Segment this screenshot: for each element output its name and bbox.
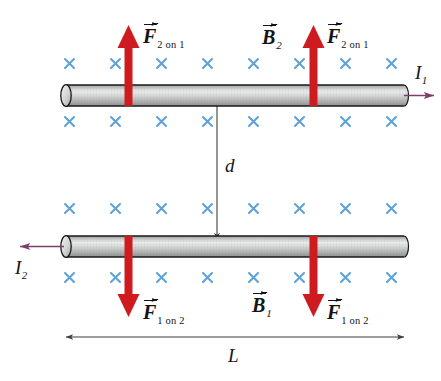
physics-figure-parallel-wires: F2 on 1 B2 F2 on 1 I1 I2 d F1 on 2 B1 F1… bbox=[0, 0, 441, 381]
label-force-2-on-1-right: F2 on 1 bbox=[327, 26, 368, 46]
field-row-above-wire-2 bbox=[65, 204, 396, 213]
length-symbol: L bbox=[228, 345, 239, 366]
current-subscript: 1 bbox=[422, 74, 428, 86]
label-force-2-on-1-left: F2 on 1 bbox=[143, 26, 184, 46]
field-row-above-wire-1 bbox=[65, 59, 396, 68]
label-force-1-on-2-left: F1 on 2 bbox=[143, 302, 184, 322]
force-symbol: F bbox=[327, 302, 340, 322]
force-subscript: 1 on 2 bbox=[157, 315, 184, 326]
label-current-i2: I2 bbox=[15, 258, 27, 277]
wire-1 bbox=[61, 85, 409, 107]
force-symbol: F bbox=[327, 26, 340, 46]
label-field-b1: B1 bbox=[252, 295, 271, 315]
label-separation-d: d bbox=[225, 156, 235, 175]
field-subscript: 2 bbox=[276, 39, 282, 51]
force-subscript: 2 on 1 bbox=[157, 39, 184, 50]
force-subscript: 2 on 1 bbox=[341, 39, 368, 50]
field-row-below-wire-2 bbox=[65, 273, 396, 282]
field-row-below-wire-1 bbox=[65, 117, 396, 126]
current-subscript: 2 bbox=[22, 269, 28, 281]
label-field-b2: B2 bbox=[262, 27, 281, 47]
wire-2 bbox=[61, 236, 409, 258]
force-symbol: F bbox=[143, 302, 156, 322]
field-subscript: 1 bbox=[266, 307, 272, 319]
force-subscript: 1 on 2 bbox=[341, 315, 368, 326]
force-symbol: F bbox=[143, 26, 156, 46]
separation-symbol: d bbox=[225, 155, 235, 176]
field-symbol: B bbox=[252, 295, 265, 315]
current-symbol: I bbox=[415, 62, 421, 83]
diagram-canvas bbox=[0, 0, 441, 381]
label-force-1-on-2-right: F1 on 2 bbox=[327, 302, 368, 322]
label-length-l: L bbox=[228, 346, 239, 365]
label-current-i1: I1 bbox=[415, 63, 427, 82]
field-symbol: B bbox=[262, 27, 275, 47]
current-symbol: I bbox=[15, 257, 21, 278]
